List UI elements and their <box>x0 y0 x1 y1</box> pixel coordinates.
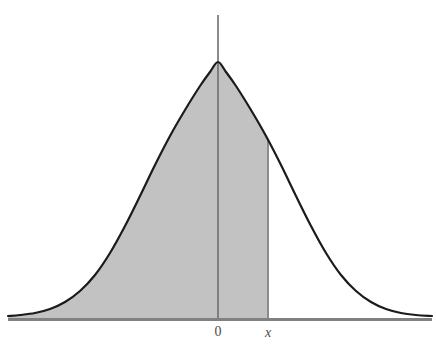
normal-distribution-figure: 0 x <box>0 0 436 349</box>
axis-tick-label-zero: 0 <box>205 325 231 339</box>
axis-tick-label-x: x <box>255 326 281 340</box>
shaded-area-under-curve <box>8 62 268 319</box>
distribution-plot <box>0 0 436 349</box>
